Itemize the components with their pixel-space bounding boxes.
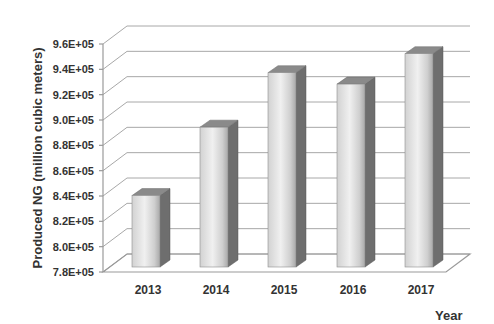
x-tick-label: 2015 bbox=[271, 283, 298, 297]
x-tick-label: 2013 bbox=[135, 283, 162, 297]
y-tick-label: 7.8E+05 bbox=[53, 266, 94, 278]
y-tick-label: 9.2E+05 bbox=[53, 89, 94, 101]
bar-2014 bbox=[200, 120, 238, 267]
bar-series bbox=[132, 47, 443, 267]
y-axis-title: Produced NG (million cubic meters) bbox=[30, 47, 45, 268]
bar-2017 bbox=[405, 47, 443, 267]
y-tick-label: 8.8E+05 bbox=[53, 139, 94, 151]
y-tick-label: 9.4E+05 bbox=[53, 63, 94, 75]
bar-2016 bbox=[337, 77, 375, 267]
y-tick-label: 8.6E+05 bbox=[53, 165, 94, 177]
gridline bbox=[103, 26, 470, 44]
y-tick-label: 9.0E+05 bbox=[53, 114, 94, 126]
y-tick-label: 8.2E+05 bbox=[53, 215, 94, 227]
x-axis-title: Year bbox=[435, 308, 462, 323]
x-axis-category-labels: 20132014201520162017 bbox=[135, 283, 435, 297]
x-tick-label: 2016 bbox=[340, 283, 367, 297]
produced-ng-3d-column-chart: 7.8E+058.0E+058.2E+058.4E+058.6E+058.8E+… bbox=[0, 0, 494, 324]
y-tick-label: 8.4E+05 bbox=[53, 190, 94, 202]
y-axis-tick-labels: 7.8E+058.0E+058.2E+058.4E+058.6E+058.8E+… bbox=[53, 38, 94, 278]
bar-2015 bbox=[268, 66, 306, 267]
bar-2013 bbox=[132, 189, 170, 267]
x-tick-label: 2017 bbox=[408, 283, 435, 297]
y-tick-label: 8.0E+05 bbox=[53, 241, 94, 253]
x-tick-label: 2014 bbox=[203, 283, 230, 297]
y-tick-label: 9.6E+05 bbox=[53, 38, 94, 50]
